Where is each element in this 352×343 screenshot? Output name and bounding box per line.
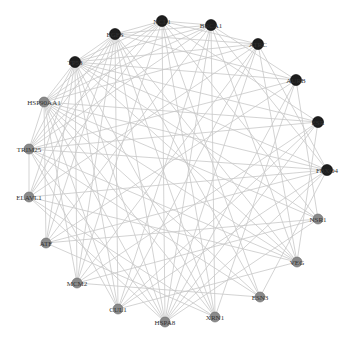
node-label: TP53 (67, 59, 83, 67)
node-label: HSPA8 (155, 319, 176, 327)
node-fbxo4[interactable]: FBXO4 (316, 165, 339, 176)
node-label: VEG (290, 259, 304, 267)
node-esr[interactable]: ESR (312, 117, 325, 128)
node-nsr1[interactable]: NSR1 (309, 214, 327, 224)
node-trim25[interactable]: TRIM25 (17, 144, 42, 154)
node-tp53[interactable]: TP53 (67, 57, 83, 68)
node-esn3[interactable]: ESN3 (252, 292, 269, 302)
node-label: ESR (312, 119, 325, 127)
node-veg[interactable]: VEG (290, 257, 304, 267)
node-label: TRIM25 (17, 146, 42, 154)
node-label: ELAVL1 (16, 194, 42, 202)
node-label: CUL1 (109, 306, 127, 314)
node-hspa8[interactable]: HSPA8 (155, 317, 176, 327)
node-xrn1[interactable]: XRN1 (206, 312, 225, 322)
network-diagram: NCL1BRCA1ATRCAURBESRFBXO4NSR1VEGESN3XRN1… (0, 0, 352, 343)
node-atf[interactable]: ATF (40, 238, 53, 248)
node-label: ATRC (249, 41, 267, 49)
node-ncl1[interactable]: NCL1 (153, 16, 171, 27)
node-aurb[interactable]: AURB (286, 75, 306, 86)
node-hsp90aa1[interactable]: HSP90AA1 (27, 97, 61, 107)
node-egfs[interactable]: EGFS (106, 29, 123, 40)
node-cul1[interactable]: CUL1 (109, 304, 127, 314)
node-label: HSP90AA1 (27, 99, 61, 107)
node-label: MCM2 (67, 280, 88, 288)
node-label: AURB (286, 77, 306, 85)
node-elavl1[interactable]: ELAVL1 (16, 192, 42, 202)
node-label: EGFS (106, 31, 123, 39)
node-label: NSR1 (309, 216, 327, 224)
node-label: ESN3 (252, 294, 269, 302)
node-label: NCL1 (153, 18, 171, 26)
node-atrc[interactable]: ATRC (249, 39, 267, 50)
node-label: ATF (40, 240, 53, 248)
node-brca1[interactable]: BRCA1 (200, 20, 223, 31)
node-label: FBXO4 (316, 167, 339, 175)
node-label: BRCA1 (200, 22, 223, 30)
node-label: XRN1 (206, 314, 225, 322)
node-mcm2[interactable]: MCM2 (67, 278, 88, 288)
